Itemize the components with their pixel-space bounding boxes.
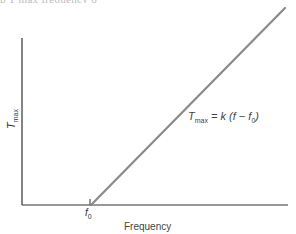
x-tick-label-f0: f0 (85, 207, 92, 220)
equation-annotation: Tmax = k (f − f0) (188, 110, 259, 124)
y-axis-label: Tmax (5, 109, 19, 129)
x-axis-label: Frequency (124, 221, 171, 232)
data-line (91, 8, 285, 205)
